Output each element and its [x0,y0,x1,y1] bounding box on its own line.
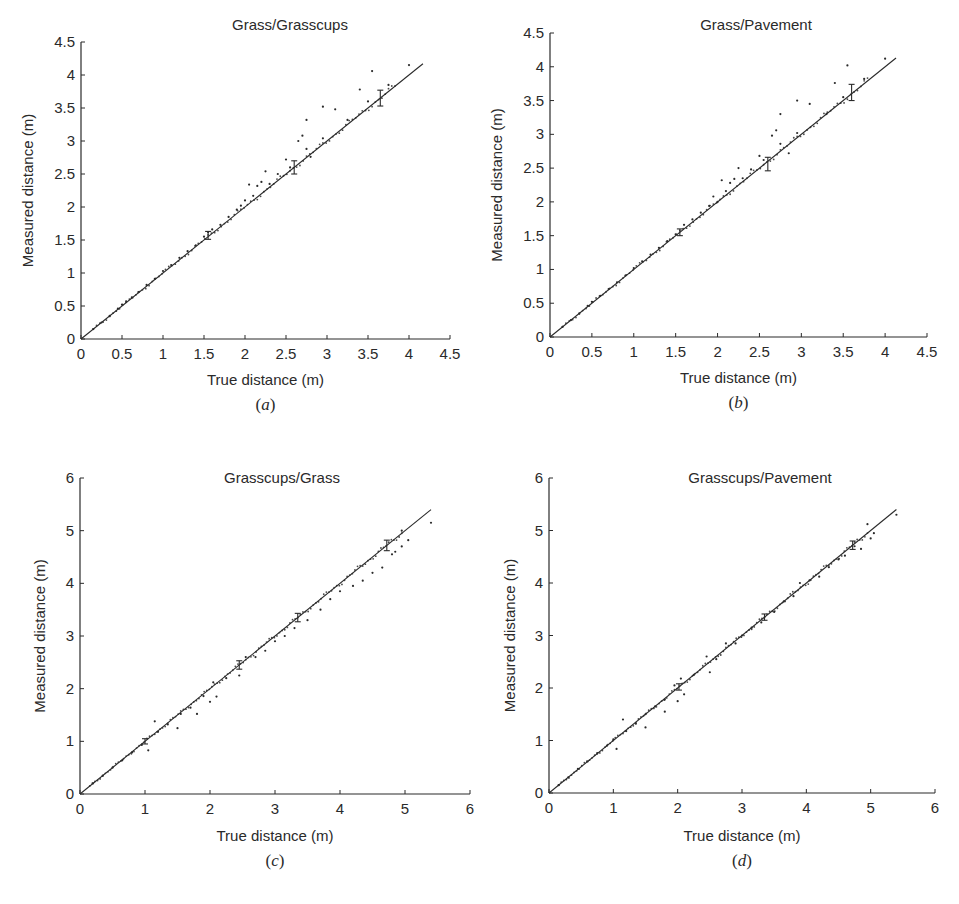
x-tick-label: 1 [630,343,638,360]
x-tick-label: 4 [881,343,889,360]
data-point [407,539,409,541]
x-axis-label: True distance (m) [684,827,801,844]
y-axis-label: Measured distance (m) [488,108,505,261]
x-tick-label: 0.5 [581,343,602,360]
data-point [285,158,287,160]
y-tick-label: 3 [66,627,74,644]
data-point [825,113,827,115]
data-point [788,152,790,154]
data-point [616,281,618,283]
data-point [322,106,324,108]
y-tick-label: 3 [536,125,544,142]
data-point [842,96,844,98]
y-tick-label: 0 [66,785,74,802]
data-point [758,155,760,157]
data-point [870,537,872,539]
y-tick-label: 0 [535,784,543,801]
data-point [779,113,781,115]
data-point [712,195,714,197]
x-tick-label: 3 [271,800,279,817]
data-point [846,64,848,66]
x-axis-label: True distance (m) [217,827,334,844]
data-point [775,129,777,131]
chart-panel-a: 00.511.522.533.544.500.511.522.533.544.5… [19,16,460,414]
data-point [178,257,180,259]
x-tick-label: 0 [76,800,84,817]
y-axis-label: Measured distance (m) [501,559,518,712]
data-point [260,181,262,183]
data-point [334,108,336,110]
y-tick-label: 4 [67,66,75,83]
y-tick-label: 5 [66,522,74,539]
data-point [860,548,862,550]
data-point [725,642,727,644]
data-point [196,713,198,715]
data-point [339,590,341,592]
chart-panel-b: 00.511.522.533.544.500.511.522.533.544.5… [488,16,937,412]
data-point [367,100,369,102]
data-point [203,236,205,238]
data-point [297,140,299,142]
y-tick-label: 6 [66,469,74,486]
y-tick-label: 2 [66,680,74,697]
y-tick-label: 4 [66,574,74,591]
data-point [779,143,781,145]
x-tick-label: 5 [401,800,409,817]
x-tick-label: 2 [713,343,721,360]
data-point [683,224,685,226]
data-point [401,530,403,532]
data-point [664,711,666,713]
data-point [715,658,717,660]
x-tick-label: 6 [931,799,939,816]
x-tick-label: 2 [206,800,214,817]
data-point [683,693,685,695]
x-tick-label: 4.5 [440,345,461,362]
data-point [633,267,635,269]
y-tick-label: 0.5 [54,297,75,314]
data-point [677,700,679,702]
data-point [240,205,242,207]
data-point [796,132,798,134]
data-point [587,305,589,307]
panel-caption: (a) [256,395,276,414]
data-point [818,576,820,578]
data-point [310,156,312,158]
data-point [256,185,258,187]
data-point [219,224,221,226]
data-point [254,656,256,658]
data-point [329,598,331,600]
data-point [771,135,773,137]
data-point [371,70,373,72]
x-tick-label: 3 [738,799,746,816]
x-tick-label: 2 [241,345,249,362]
data-point [244,199,246,201]
data-point [277,173,279,175]
data-point [725,190,727,192]
data-point [834,82,836,84]
data-point [809,103,811,105]
x-tick-label: 2.5 [276,345,297,362]
data-point [853,545,855,547]
data-point [238,674,240,676]
data-point [264,170,266,172]
panel-caption: (b) [729,393,749,412]
data-point [408,64,410,66]
data-point [401,545,403,547]
y-tick-label: 0 [536,328,544,345]
data-point [844,555,846,557]
chart-title: Grasscups/Grass [224,469,340,486]
x-tick-label: 3.5 [358,345,379,362]
x-tick-label: 0 [546,343,554,360]
data-point [264,650,266,652]
data-point [733,178,735,180]
data-point [301,135,303,137]
data-point [381,566,383,568]
data-point [742,177,744,179]
data-point [658,247,660,249]
data-point [394,551,396,553]
identity-line [550,58,896,337]
y-tick-label: 1 [536,260,544,277]
chart-panel-d: 01234560123456Grasscups/PavementTrue dis… [501,469,939,870]
y-axis-label: Measured distance (m) [31,559,48,712]
y-tick-label: 4 [535,574,543,591]
